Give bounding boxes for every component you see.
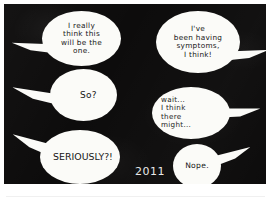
speech-balloon-4-text: wait... I think there might...: [152, 96, 230, 130]
speech-balloon-3-text: So?: [50, 90, 117, 101]
year-caption: 2011: [135, 165, 165, 178]
speech-balloon-1: I really think this will be the one.: [42, 11, 121, 66]
speech-balloon-4: wait... I think there might...: [152, 87, 230, 139]
speech-balloon-3: So?: [50, 69, 117, 121]
speech-balloon-5: SERIOUSLY?!: [40, 130, 120, 184]
comic-panel: I really think this will be the one. I'v…: [4, 4, 266, 184]
speech-balloon-5-text: SERIOUSLY?!: [40, 151, 120, 162]
speech-balloon-2: I've been having symptoms, I think!: [156, 11, 240, 73]
page-rule-line: [6, 196, 265, 197]
speech-balloon-6-text: Nope.: [173, 162, 221, 171]
comic-panel-root: I really think this will be the one. I'v…: [0, 0, 271, 203]
speech-balloon-1-text: I really think this will be the one.: [42, 21, 121, 55]
speech-balloon-2-text: I've been having symptoms, I think!: [156, 25, 240, 59]
speech-balloon-6: Nope.: [173, 144, 221, 184]
